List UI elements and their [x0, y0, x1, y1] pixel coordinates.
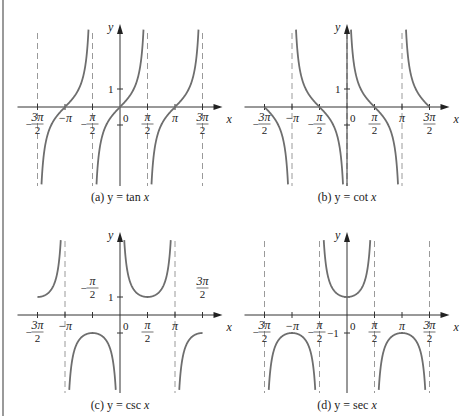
svg-text:3π: 3π — [195, 110, 209, 124]
y-axis-label: y — [107, 20, 114, 34]
svg-text:2: 2 — [145, 332, 151, 344]
x-tick-label-pi: π — [172, 319, 179, 333]
svg-text:π: π — [316, 110, 323, 124]
x-tick-label-neg-pi: −π — [58, 319, 73, 333]
x-tick-label-3pi-2: 3π2 — [195, 110, 209, 136]
y-axis-label: y — [334, 20, 341, 34]
x-tick-label-pi-2: π2 — [142, 110, 154, 136]
origin-label: 0 — [123, 112, 129, 124]
svg-text:2: 2 — [145, 124, 151, 136]
x-axis-arrow-icon — [441, 104, 450, 110]
x-axis-arrow-icon — [441, 312, 450, 318]
figure-caption: (c) y = csc x — [91, 398, 150, 412]
x-axis-arrow-icon — [214, 104, 223, 110]
x-axis-label: x — [226, 112, 233, 126]
origin-label: 0 — [123, 320, 129, 332]
svg-text:−: − — [80, 118, 86, 130]
svg-text:2: 2 — [372, 124, 378, 136]
x-tick-label-neg-pi-2: −π2 — [307, 110, 325, 136]
x-tick-label-neg-pi-2: −π2 — [80, 274, 98, 300]
y-axis-arrow-icon — [117, 24, 123, 34]
svg-text:3π: 3π — [30, 318, 44, 332]
y-tick-label-neg1: −1 — [327, 327, 339, 339]
svg-text:−: − — [307, 118, 313, 130]
svg-text:2: 2 — [317, 124, 323, 136]
x-axis-label: x — [226, 320, 233, 334]
svg-text:2: 2 — [372, 332, 378, 344]
svg-text:3π: 3π — [422, 110, 436, 124]
figure-caption: (d) y = sec x — [317, 398, 377, 412]
svg-text:3π: 3π — [257, 318, 271, 332]
panel-sec: xy−10−3π2−π−π2π2π3π2(d) y = sec x — [245, 228, 460, 412]
svg-text:π: π — [316, 318, 323, 332]
x-tick-label-neg-3pi-2: −3π2 — [252, 110, 271, 136]
panel-tan: xy10−3π2−π−π2π2π3π2(a) y = tan x — [18, 20, 233, 204]
trig-functions-figure: xy10−3π2−π−π2π2π3π2(a) y = tan x xy10−3π… — [0, 0, 466, 416]
y-tick-label-1: 1 — [108, 83, 114, 95]
x-tick-label-pi: π — [399, 319, 406, 333]
y-axis-arrow-icon — [344, 232, 350, 242]
svg-text:2: 2 — [90, 288, 96, 300]
x-tick-label-neg-pi-2: −π2 — [80, 110, 98, 136]
svg-text:π: π — [89, 274, 96, 288]
x-tick-label-neg-pi: −π — [285, 111, 300, 125]
x-tick-label-neg-3pi-2: −3π2 — [25, 318, 44, 344]
figure-caption: (b) y = cot x — [318, 190, 377, 204]
svg-text:π: π — [144, 318, 151, 332]
svg-text:2: 2 — [262, 124, 268, 136]
x-axis-arrow-icon — [214, 312, 223, 318]
figure-caption: (a) y = tan x — [91, 190, 150, 204]
origin-label: 0 — [350, 320, 356, 332]
svg-text:−: − — [307, 326, 313, 338]
x-tick-label-pi: π — [172, 111, 179, 125]
svg-text:π: π — [144, 110, 151, 124]
x-tick-label-neg-3pi-2: −3π2 — [25, 110, 44, 136]
y-axis-label: y — [334, 228, 341, 242]
x-tick-label-neg-3pi-2: −3π2 — [252, 318, 271, 344]
svg-text:2: 2 — [427, 332, 433, 344]
panel-cot: xy10−3π2−π−π2π2π3π2(b) y = cot x — [245, 20, 460, 204]
x-tick-label-pi: π — [399, 111, 406, 125]
svg-text:π: π — [371, 110, 378, 124]
svg-text:3π: 3π — [30, 110, 44, 124]
origin-label: 0 — [350, 112, 356, 124]
x-tick-label-pi-2: π2 — [369, 318, 381, 344]
svg-text:2: 2 — [427, 124, 433, 136]
x-tick-label-pi-2: π2 — [142, 318, 154, 344]
svg-text:π: π — [89, 110, 96, 124]
x-tick-label-3pi-2: 3π2 — [422, 110, 436, 136]
svg-text:3π: 3π — [422, 318, 436, 332]
x-axis-label: x — [453, 112, 460, 126]
x-tick-label-neg-pi: −π — [285, 319, 300, 333]
svg-text:2: 2 — [317, 332, 323, 344]
x-axis-label: x — [453, 320, 460, 334]
svg-text:2: 2 — [90, 124, 96, 136]
svg-text:2: 2 — [35, 124, 41, 136]
y-axis-arrow-icon — [117, 232, 123, 242]
y-tick-label-1: 1 — [108, 291, 114, 303]
svg-text:2: 2 — [35, 332, 41, 344]
y-axis-arrow-icon — [344, 24, 350, 34]
svg-text:π: π — [371, 318, 378, 332]
svg-text:2: 2 — [200, 288, 206, 300]
svg-text:2: 2 — [262, 332, 268, 344]
panel-csc: xy10−3π2−π−π2π2π3π2(c) y = csc x — [18, 228, 233, 412]
svg-text:2: 2 — [200, 124, 206, 136]
x-tick-label-3pi-2: 3π2 — [422, 318, 436, 344]
x-tick-label-pi-2: π2 — [369, 110, 381, 136]
y-tick-label-1: 1 — [335, 83, 341, 95]
x-tick-label-3pi-2: 3π2 — [195, 274, 209, 300]
svg-text:−: − — [80, 282, 86, 294]
svg-text:3π: 3π — [195, 274, 209, 288]
x-tick-label-neg-pi-2: −π2 — [307, 318, 325, 344]
y-axis-label: y — [107, 228, 114, 242]
